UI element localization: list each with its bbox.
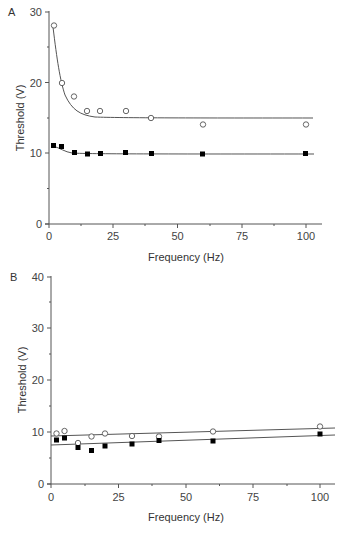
panel-a-open-fit-curve: [53, 27, 313, 118]
svg-text:75: 75: [247, 491, 259, 503]
svg-text:50: 50: [180, 491, 192, 503]
panel-a-y-axis-title: Threshold (V): [14, 85, 26, 152]
svg-text:20: 20: [32, 374, 44, 386]
panel-a-filled-fit-curve: [53, 146, 314, 154]
svg-text:0: 0: [46, 230, 52, 242]
panel-a-open-circle-series: [51, 23, 308, 127]
panel-b-y-ticks: [47, 277, 51, 484]
panel-b-x-tick-labels: 0 25 50 75 100: [48, 491, 329, 503]
panel-a-x-ticks: [49, 224, 306, 228]
figure: A 0 10 20 30: [0, 0, 341, 535]
svg-text:30: 30: [32, 322, 44, 334]
svg-text:30: 30: [30, 6, 42, 18]
svg-text:100: 100: [297, 230, 315, 242]
panel-a-y-ticks: [45, 12, 49, 224]
svg-text:40: 40: [32, 271, 44, 283]
svg-text:10: 10: [32, 426, 44, 438]
svg-text:25: 25: [112, 491, 124, 503]
svg-text:25: 25: [107, 230, 119, 242]
svg-text:20: 20: [30, 77, 42, 89]
panel-b-y-tick-labels: 0 10 20 30 40: [32, 271, 44, 490]
panel-a-x-axis-title: Frequency (Hz): [148, 251, 224, 263]
panel-a-x-tick-labels: 0 25 50 75 100: [46, 230, 315, 242]
svg-text:75: 75: [236, 230, 248, 242]
panel-b-x-ticks: [51, 484, 320, 488]
panel-a-label: A: [8, 6, 16, 18]
svg-text:0: 0: [36, 218, 42, 230]
svg-text:100: 100: [311, 491, 329, 503]
svg-text:0: 0: [38, 478, 44, 490]
svg-text:0: 0: [48, 491, 54, 503]
panel-b: B 0 10 20 30 40: [10, 271, 335, 523]
panel-a: A 0 10 20 30: [8, 6, 322, 263]
panel-b-x-axis-title: Frequency (Hz): [148, 511, 224, 523]
panel-b-y-axis-title: Threshold (V): [16, 347, 28, 414]
svg-text:50: 50: [171, 230, 183, 242]
svg-text:10: 10: [30, 147, 42, 159]
panel-b-label: B: [10, 271, 17, 283]
panel-a-y-tick-labels: 0 10 20 30: [30, 6, 42, 230]
